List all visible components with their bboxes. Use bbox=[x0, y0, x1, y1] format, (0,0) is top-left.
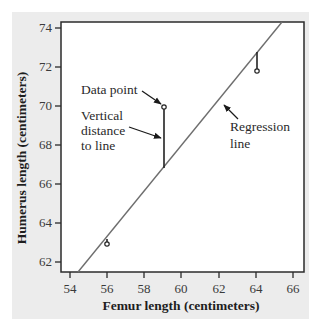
x-tick-label-56: 56 bbox=[101, 281, 115, 296]
annotation-line-3: to line bbox=[81, 138, 115, 153]
y-tick-label-62: 62 bbox=[39, 254, 52, 269]
y-tick-label-70: 70 bbox=[39, 98, 52, 113]
annotation-line-2: distance bbox=[81, 123, 125, 138]
x-axis-title: Femur length (centimeters) bbox=[102, 298, 259, 313]
x-tick-label-64: 64 bbox=[250, 281, 264, 296]
data-point-marker bbox=[255, 69, 259, 73]
y-axis-tick-labels: 74 72 70 68 66 64 62 bbox=[39, 20, 53, 269]
y-axis-title: Humerus length (centimeters) bbox=[14, 72, 29, 244]
y-tick-label-72: 72 bbox=[39, 59, 52, 74]
annotation-line-2: line bbox=[230, 136, 250, 151]
annotation-line-1: Vertical bbox=[81, 108, 123, 123]
x-tick-label-62: 62 bbox=[213, 281, 226, 296]
annotation-line-1: Regression bbox=[230, 119, 290, 134]
y-tick-label-68: 68 bbox=[39, 137, 52, 152]
scatter-chart: 74 72 70 68 66 64 62 54 56 58 60 62 64 6… bbox=[0, 0, 321, 330]
y-tick-label-64: 64 bbox=[39, 215, 53, 230]
x-tick-label-54: 54 bbox=[64, 281, 78, 296]
y-tick-label-66: 66 bbox=[39, 176, 53, 191]
annotation-data-point: Data point bbox=[81, 82, 138, 97]
x-tick-label-66: 66 bbox=[287, 281, 301, 296]
data-point-marker bbox=[105, 242, 109, 246]
x-axis-tick-labels: 54 56 58 60 62 64 66 bbox=[64, 281, 301, 296]
x-axis-ticks bbox=[70, 272, 293, 278]
x-tick-label-60: 60 bbox=[175, 281, 188, 296]
y-tick-label-74: 74 bbox=[39, 20, 53, 35]
data-point-marker bbox=[162, 105, 166, 109]
x-tick-label-58: 58 bbox=[138, 281, 151, 296]
y-axis-ticks bbox=[55, 28, 61, 262]
